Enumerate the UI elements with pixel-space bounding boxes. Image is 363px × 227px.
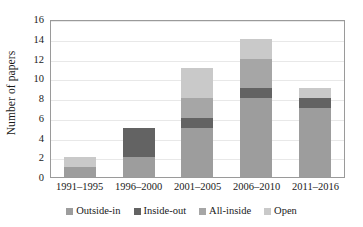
legend-swatch-icon <box>199 208 206 215</box>
y-axis-tick-label: 16 <box>34 15 45 26</box>
bar-segment[interactable] <box>64 157 96 167</box>
y-axis-tick-label: 12 <box>34 54 45 65</box>
bar-segment[interactable] <box>240 98 272 177</box>
legend-label: Inside-out <box>144 206 187 217</box>
y-axis-tick-label: 14 <box>34 35 45 46</box>
bar-stack[interactable] <box>240 39 272 177</box>
legend-label: All-inside <box>209 206 251 217</box>
y-axis-tick-label: 2 <box>39 153 44 164</box>
bar-segment[interactable] <box>123 157 155 177</box>
bar-stack[interactable] <box>123 128 155 177</box>
bar-segment[interactable] <box>181 68 213 98</box>
bar-segment[interactable] <box>299 108 331 177</box>
y-axis-tick-label: 8 <box>39 94 44 105</box>
y-axis-tick-label: 0 <box>39 173 44 184</box>
bar-chart: Number of papers 1614121086420 1991–1995… <box>0 0 363 227</box>
bar-segment[interactable] <box>181 128 213 177</box>
x-axis-tick-label: 2001–2005 <box>169 181 226 193</box>
bar-segment[interactable] <box>299 98 331 108</box>
bar-segment[interactable] <box>181 98 213 118</box>
bar-group[interactable] <box>169 21 226 177</box>
chart-legend: Outside-inInside-outAll-insideOpen <box>0 201 363 221</box>
bar-stack[interactable] <box>181 68 213 177</box>
x-axis-tick-label: 1996–2000 <box>110 181 167 193</box>
bar-segment[interactable] <box>181 118 213 128</box>
y-axis-tick-label: 6 <box>39 114 44 125</box>
legend-item[interactable]: Outside-in <box>66 206 120 217</box>
legend-swatch-icon <box>66 208 73 215</box>
bar-stack[interactable] <box>64 157 96 177</box>
bar-segment[interactable] <box>64 167 96 177</box>
y-axis-tick-label: 10 <box>34 74 45 85</box>
plot-area <box>50 20 345 178</box>
bar-group[interactable] <box>286 21 343 177</box>
legend-label: Open <box>274 206 297 217</box>
y-axis-title: Number of papers <box>0 0 22 185</box>
bar-segment[interactable] <box>240 59 272 89</box>
legend-item[interactable]: All-inside <box>199 206 251 217</box>
legend-swatch-icon <box>134 208 141 215</box>
x-axis-tick-label: 1991–1995 <box>51 181 108 193</box>
bar-segment[interactable] <box>123 128 155 158</box>
x-axis-tick-label: 2006–2010 <box>228 181 285 193</box>
bar-segment[interactable] <box>240 39 272 59</box>
y-axis-title-text: Number of papers <box>5 50 17 135</box>
bar-group[interactable] <box>52 21 109 177</box>
legend-item[interactable]: Inside-out <box>134 206 187 217</box>
bar-group[interactable] <box>228 21 285 177</box>
bar-segment[interactable] <box>240 88 272 98</box>
bar-group[interactable] <box>110 21 167 177</box>
legend-item[interactable]: Open <box>264 206 297 217</box>
y-axis-tick-label: 4 <box>39 133 44 144</box>
bar-segment[interactable] <box>299 88 331 98</box>
bars-layer <box>51 21 344 177</box>
bar-stack[interactable] <box>299 88 331 177</box>
legend-swatch-icon <box>264 208 271 215</box>
legend-label: Outside-in <box>76 206 120 217</box>
y-axis-tick-labels: 1614121086420 <box>22 20 47 178</box>
x-axis-tick-label: 2011–2016 <box>287 181 344 193</box>
x-axis-tick-labels: 1991–19951996–20002001–20052006–20102011… <box>50 181 345 199</box>
